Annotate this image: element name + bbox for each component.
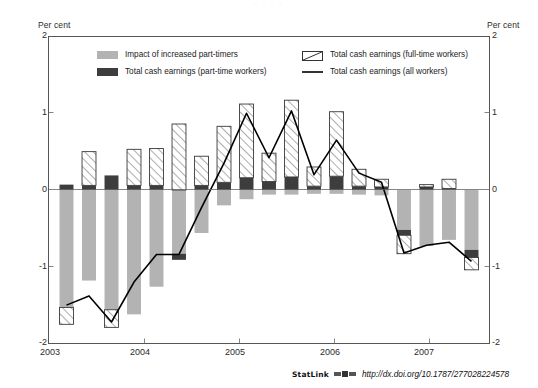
bar-seg-full-time-earnings	[442, 179, 456, 188]
bar-seg-part-time-earnings	[397, 230, 411, 235]
bar-seg-full-time-earnings	[330, 112, 344, 176]
hatched-swatch-icon	[302, 51, 323, 59]
legend-item-all-workers-line: Total cash earnings (all workers)	[302, 67, 447, 76]
bar-seg-part-time-earnings	[105, 175, 119, 190]
figure-root: · · · · Per cent Per cent 2 1 0 -1 -2 2 …	[0, 0, 538, 388]
stacked-bar	[217, 126, 231, 205]
stacked-bar	[172, 124, 186, 260]
bar-seg-part-timer-impact	[307, 190, 321, 194]
stacked-bar	[195, 156, 209, 233]
bar-seg-part-timer-impact	[60, 190, 74, 307]
legend-label-all-workers-line: Total cash earnings (all workers)	[330, 67, 447, 76]
bar-seg-part-timer-impact	[82, 190, 96, 281]
bar-seg-part-timer-impact	[285, 190, 299, 195]
legend-label-full-time-earnings: Total cash earnings (full-time workers)	[330, 50, 468, 59]
bar-seg-part-time-earnings	[217, 182, 231, 190]
dark-fill-swatch-icon	[97, 68, 118, 76]
bar-seg-full-time-earnings	[195, 156, 209, 185]
bar-seg-full-time-earnings	[172, 124, 186, 190]
bar-seg-full-time-earnings	[150, 149, 164, 186]
stacked-bar	[285, 100, 299, 194]
legend-item-part-timer-impact: Impact of increased part-timers	[97, 50, 238, 59]
bar-seg-part-timer-impact	[240, 190, 254, 199]
line-swatch-icon	[302, 68, 323, 76]
bar-seg-part-timer-impact	[150, 190, 164, 287]
stacked-bar	[442, 179, 456, 240]
statlink-footer: StatLink http://dx.doi.org/10.1787/27702…	[292, 369, 509, 379]
stacked-bar	[240, 104, 254, 199]
stacked-bar	[262, 153, 276, 194]
statlink-glyph-icon	[334, 370, 356, 378]
bar-seg-part-timer-impact	[127, 190, 141, 314]
bar-seg-full-time-earnings	[465, 258, 479, 270]
bar-seg-part-timer-impact	[375, 190, 389, 195]
legend-item-part-time-earnings: Total cash earnings (part-time workers)	[97, 67, 267, 76]
statlink-url[interactable]: http://dx.doi.org/10.1787/277028224578	[362, 369, 509, 379]
stacked-bar	[105, 175, 119, 327]
bar-seg-part-timer-impact	[217, 190, 231, 205]
bar-seg-full-time-earnings	[307, 167, 321, 186]
bar-seg-part-timer-impact	[352, 190, 366, 195]
bar-seg-full-time-earnings	[60, 307, 74, 324]
bar-seg-part-time-earnings	[285, 177, 299, 190]
bar-seg-part-time-earnings	[240, 178, 254, 190]
stacked-bar	[420, 185, 434, 246]
bar-seg-part-timer-impact	[442, 190, 456, 240]
stacked-bar	[82, 152, 96, 281]
grey-fill-swatch-icon	[97, 51, 118, 59]
stacked-bar	[330, 112, 344, 194]
legend-item-full-time-earnings: Total cash earnings (full-time workers)	[302, 50, 468, 59]
bar-seg-part-time-earnings	[262, 182, 276, 190]
legend-label-part-time-earnings: Total cash earnings (part-time workers)	[125, 67, 267, 76]
bar-seg-full-time-earnings	[420, 185, 434, 187]
statlink-label: StatLink	[292, 370, 329, 379]
legend-label-part-timer-impact: Impact of increased part-timers	[125, 50, 238, 59]
stacked-bar	[150, 149, 164, 287]
bar-seg-part-timer-impact	[262, 190, 276, 195]
legend: Impact of increased part-timers Total ca…	[97, 50, 487, 84]
bar-seg-part-timer-impact	[105, 190, 119, 310]
bar-seg-part-timer-impact	[330, 190, 344, 194]
bar-seg-part-timer-impact	[465, 190, 479, 250]
bar-seg-full-time-earnings	[127, 149, 141, 185]
bar-seg-part-timer-impact	[397, 190, 411, 230]
bar-seg-part-time-earnings	[330, 176, 344, 190]
bar-seg-part-timer-impact	[420, 190, 434, 246]
stacked-bar	[397, 190, 411, 254]
bar-seg-full-time-earnings	[82, 152, 96, 186]
